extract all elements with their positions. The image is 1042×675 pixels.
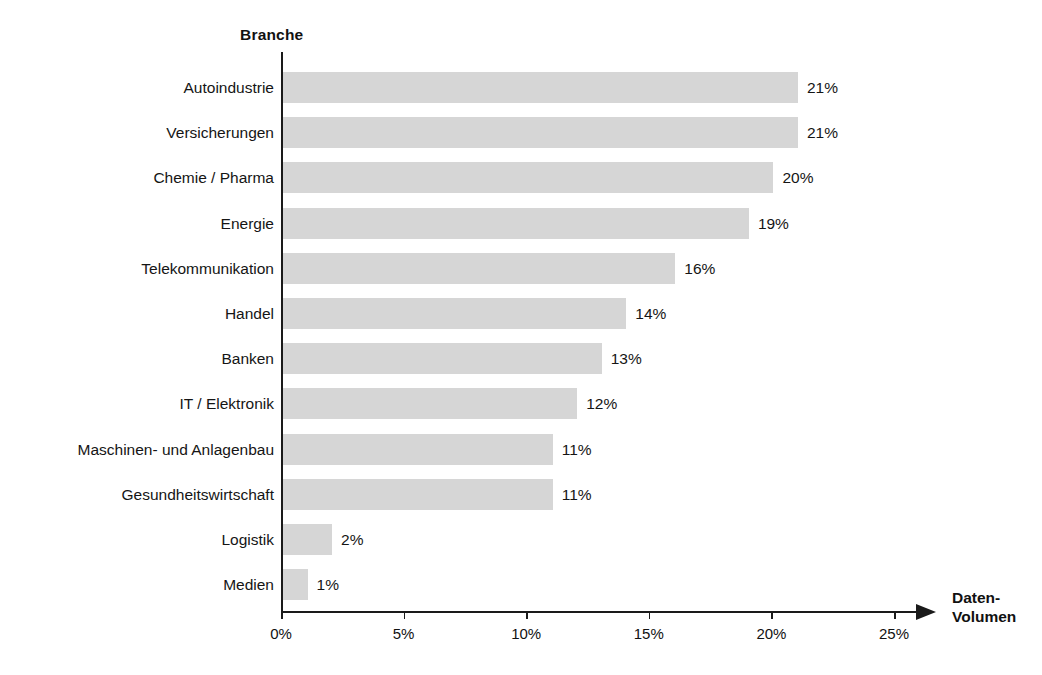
bar-value-label: 19% <box>758 208 789 239</box>
category-label: Energie <box>221 208 274 239</box>
bars-layer: Autoindustrie21%Versicherungen21%Chemie … <box>0 0 1042 675</box>
bar <box>283 72 798 103</box>
bar <box>283 524 332 555</box>
bar-row: Telekommunikation16% <box>0 253 1042 284</box>
bar-row: Energie19% <box>0 208 1042 239</box>
bar-value-label: 21% <box>807 117 838 148</box>
bar-row: Medien1% <box>0 569 1042 600</box>
x-axis-title-line-1: Daten- <box>952 588 1016 607</box>
bar <box>283 253 675 284</box>
bar-value-label: 20% <box>782 162 813 193</box>
bar-value-label: 16% <box>684 253 715 284</box>
bar-row: IT / Elektronik12% <box>0 388 1042 419</box>
category-label: Handel <box>225 298 274 329</box>
bar-value-label: 13% <box>611 343 642 374</box>
category-label: Chemie / Pharma <box>153 162 274 193</box>
bar-row: Handel14% <box>0 298 1042 329</box>
category-label: Medien <box>223 569 274 600</box>
category-label: Logistik <box>221 524 274 555</box>
x-axis-title: Daten- Volumen <box>952 588 1016 626</box>
bar-value-label: 11% <box>562 479 592 510</box>
category-label: Banken <box>221 343 274 374</box>
bar-value-label: 14% <box>635 298 666 329</box>
bar <box>283 117 798 148</box>
bar-value-label: 12% <box>586 388 617 419</box>
x-axis-title-line-2: Volumen <box>952 607 1016 626</box>
bar-row: Gesundheitswirtschaft11% <box>0 479 1042 510</box>
category-label: Telekommunikation <box>141 253 274 284</box>
bar <box>283 343 602 374</box>
bar <box>283 479 553 510</box>
bar <box>283 569 308 600</box>
bar-row: Maschinen- und Anlagenbau11% <box>0 434 1042 465</box>
bar-row: Autoindustrie21% <box>0 72 1042 103</box>
bar-value-label: 11% <box>562 434 592 465</box>
bar <box>283 434 553 465</box>
category-label: Versicherungen <box>166 117 274 148</box>
bar <box>283 298 626 329</box>
bar-value-label: 21% <box>807 72 838 103</box>
category-label: IT / Elektronik <box>180 388 274 419</box>
category-label: Gesundheitswirtschaft <box>122 479 275 510</box>
bar-row: Chemie / Pharma20% <box>0 162 1042 193</box>
category-label: Maschinen- und Anlagenbau <box>78 434 274 465</box>
category-label: Autoindustrie <box>184 72 274 103</box>
bar-chart: Branche 0%5%10%15%20%25% Autoindustrie21… <box>0 0 1042 675</box>
bar-value-label: 1% <box>317 569 339 600</box>
bar <box>283 208 749 239</box>
bar <box>283 162 773 193</box>
bar-row: Banken13% <box>0 343 1042 374</box>
bar-row: Versicherungen21% <box>0 117 1042 148</box>
bar-row: Logistik2% <box>0 524 1042 555</box>
bar-value-label: 2% <box>341 524 363 555</box>
bar <box>283 388 577 419</box>
